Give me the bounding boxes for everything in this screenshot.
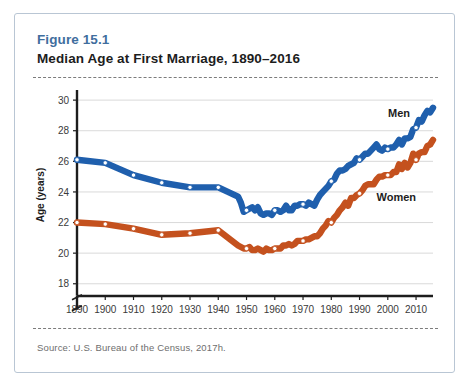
- x-tick-label: 2010: [405, 304, 428, 315]
- x-tick-label: 1980: [320, 304, 343, 315]
- y-tick-label: 22: [58, 217, 70, 228]
- figure-title: Median Age at First Marriage, 1890–2016: [37, 51, 300, 66]
- figure-card: Figure 15.1 Median Age at First Marriage…: [14, 13, 455, 373]
- x-tick-label: 1930: [179, 304, 202, 315]
- y-axis-ticks: 18202224262830: [58, 95, 77, 290]
- data-point-marker: [160, 181, 164, 185]
- data-point-marker: [188, 231, 192, 235]
- data-point-marker: [216, 185, 220, 189]
- source-note: Source: U.S. Bureau of the Census, 2017h…: [37, 342, 226, 353]
- data-point-marker: [414, 158, 418, 162]
- y-tick-label: 18: [58, 278, 70, 289]
- x-tick-label: 1950: [235, 304, 258, 315]
- data-point-marker: [216, 228, 220, 232]
- data-point-marker: [244, 246, 248, 250]
- data-point-marker: [160, 233, 164, 237]
- data-point-marker: [244, 208, 248, 212]
- x-axis-ticks: 1890190019101920193019401950196019701980…: [66, 296, 428, 315]
- data-point-marker: [103, 161, 107, 165]
- data-point-marker: [386, 147, 390, 151]
- data-point-marker: [131, 226, 135, 230]
- data-point-marker: [301, 239, 305, 243]
- data-point-marker: [103, 222, 107, 226]
- y-tick-label: 20: [58, 248, 70, 259]
- x-tick-label: 2000: [377, 304, 400, 315]
- x-tick-label: 1900: [94, 304, 117, 315]
- x-tick-label: 1920: [151, 304, 174, 315]
- data-point-marker: [414, 125, 418, 129]
- data-point-marker: [75, 220, 79, 224]
- data-point-marker: [357, 158, 361, 162]
- chart-plot-area: 18202224262830 1890190019101920193019401…: [31, 86, 440, 324]
- data-point-marker: [131, 173, 135, 177]
- data-point-marker: [329, 220, 333, 224]
- x-tick-label: 1990: [348, 304, 371, 315]
- data-point-marker: [75, 158, 79, 162]
- y-tick-label: 28: [58, 125, 70, 136]
- series-label-men: Men: [388, 107, 410, 119]
- data-series: [77, 108, 433, 252]
- x-tick-label: 1940: [207, 304, 230, 315]
- data-point-marker: [301, 202, 305, 206]
- y-axis-title: Age (years): [35, 168, 46, 222]
- y-tick-label: 30: [58, 95, 70, 106]
- data-point-marker: [357, 191, 361, 195]
- x-tick-label: 1960: [264, 304, 287, 315]
- series-label-women: Women: [377, 191, 417, 203]
- y-tick-label: 24: [58, 187, 70, 198]
- data-point-marker: [273, 208, 277, 212]
- data-point-marker: [188, 185, 192, 189]
- divider-bottom: [33, 328, 438, 329]
- divider-top: [33, 77, 438, 78]
- x-tick-label: 1970: [292, 304, 315, 315]
- data-point-marker: [273, 246, 277, 250]
- y-tick-label: 26: [58, 156, 70, 167]
- y-axis-title-text: Age (years): [35, 168, 46, 222]
- figure-number: Figure 15.1: [37, 32, 109, 47]
- line-chart: 18202224262830 1890190019101920193019401…: [31, 86, 440, 324]
- x-tick-label: 1910: [122, 304, 145, 315]
- data-point-marker: [386, 173, 390, 177]
- data-point-marker: [329, 179, 333, 183]
